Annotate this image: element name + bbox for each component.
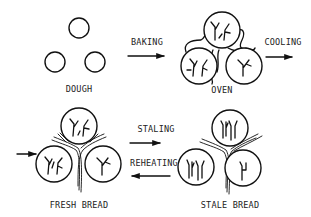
bread-granule-icon <box>212 110 248 146</box>
oven-stage: OVEN <box>181 12 262 95</box>
swollen-granule-icon <box>181 48 217 84</box>
stale-bread-stage: STALE BREAD <box>178 110 262 210</box>
dough-granule-icon <box>69 18 89 38</box>
cooling-label: COOLING <box>264 37 301 47</box>
dough-stage: DOUGH <box>45 18 105 94</box>
reheating-transition: REHEATING <box>130 158 178 176</box>
bread-staling-diagram: DOUGH BAKING OVEN COOLING <box>0 0 311 217</box>
oven-label: OVEN <box>211 85 232 95</box>
swollen-granule-icon <box>204 12 240 48</box>
staling-transition: STALING <box>130 124 175 143</box>
dough-granule-icon <box>85 52 105 72</box>
reheating-label: REHEATING <box>130 158 178 168</box>
baking-transition: BAKING <box>128 37 164 56</box>
stale-bread-label: STALE BREAD <box>201 200 260 210</box>
staling-label: STALING <box>137 124 174 134</box>
bread-granule-icon <box>61 108 97 144</box>
dough-label: DOUGH <box>66 84 93 94</box>
dough-granule-icon <box>45 52 65 72</box>
fresh-bread-stage: FRESH BREAD <box>17 108 121 210</box>
fresh-bread-label: FRESH BREAD <box>50 200 109 210</box>
cooling-transition: COOLING <box>264 37 301 57</box>
bread-granule-icon <box>225 150 261 186</box>
baking-label: BAKING <box>131 37 163 47</box>
bread-granule-icon <box>178 149 214 185</box>
